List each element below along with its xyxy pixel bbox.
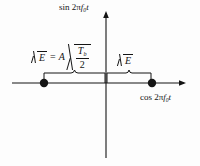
right-energy-expression: E (117, 54, 133, 68)
cos-axis-line (12, 80, 186, 86)
sin-axis-arrowhead (103, 11, 109, 18)
brace-right (107, 70, 151, 83)
cos-axis-label: cos 2πf0t (140, 93, 171, 103)
fraction-denominator: 2 (78, 59, 87, 70)
sqrt-energy-radical-right: E (117, 54, 133, 66)
left-energy-expression: E = A Tb 2 (31, 44, 91, 70)
cos-axis-label-t: t (169, 92, 172, 102)
radical-tick-icon (31, 51, 37, 63)
sin-axis-label: sin 2πf0t (59, 3, 89, 13)
signal-point-positive[interactable] (148, 79, 156, 87)
sqrt-fraction-radical: Tb 2 (67, 44, 91, 70)
cos-axis-arrowhead (179, 80, 186, 86)
cos-axis-label-text: cos 2 (140, 92, 159, 102)
figure-canvas (0, 0, 200, 166)
radical-tick-icon (117, 54, 123, 66)
fraction-numerator: Tb (76, 46, 89, 59)
sqrt-energy-radical-left: E (31, 51, 47, 63)
signal-point-negative[interactable] (40, 79, 48, 87)
brace-left (44, 70, 105, 83)
sin-axis-label-text: sin 2 (59, 2, 76, 12)
sin-axis-line (103, 11, 109, 158)
fraction-numerator-subscript: b (83, 50, 86, 57)
amplitude-symbol: A (59, 52, 65, 62)
energy-symbol-right: E (125, 56, 131, 66)
constellation-figure: sin 2πf0t cos 2πf0t E = A Tb 2 (0, 0, 200, 166)
sin-axis-label-t: t (86, 2, 89, 12)
energy-symbol-left: E (39, 53, 45, 63)
bit-duration-fraction: Tb 2 (76, 46, 89, 70)
equals-sign: = (49, 52, 57, 62)
radical-content: Tb 2 (74, 44, 91, 70)
radical-tick-icon (67, 44, 74, 70)
